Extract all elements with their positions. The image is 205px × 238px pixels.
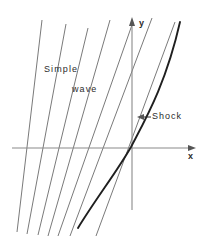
shock-group <box>78 22 180 228</box>
shock-curve <box>78 22 180 228</box>
characteristic-line-2 <box>27 24 66 234</box>
characteristic-line-4 <box>48 20 110 236</box>
label-shock: Shock <box>152 112 182 121</box>
figure-container: Simple wave Shock y x <box>0 0 205 238</box>
characteristic-line-7 <box>96 22 175 236</box>
characteristic-lines-group <box>17 18 175 236</box>
label-simple-wave-first-line: Simple <box>44 65 78 74</box>
label-axis-y: y <box>139 19 144 28</box>
label-simple-wave-second-line: wave <box>72 85 97 94</box>
characteristic-line-5 <box>58 22 133 236</box>
characteristic-line-1 <box>17 20 42 232</box>
y-axis-arrowhead <box>129 17 135 26</box>
characteristic-line-3 <box>38 28 88 235</box>
label-axis-x: x <box>188 152 193 161</box>
